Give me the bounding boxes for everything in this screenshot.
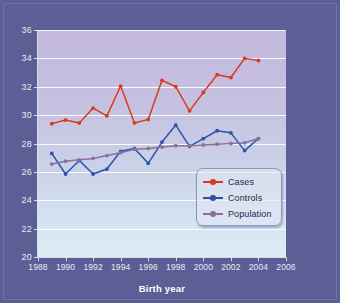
x-axis-title: Birth year: [38, 283, 286, 294]
y-tick-mark: [34, 115, 38, 116]
series-cases: [50, 56, 260, 125]
series-line: [52, 139, 259, 165]
data-point: [105, 154, 109, 158]
x-tick-label: 2004: [249, 262, 268, 272]
y-tick-label: 22: [22, 224, 32, 234]
legend-item-cases: Cases: [203, 174, 275, 190]
x-tick-mark: [38, 257, 39, 261]
data-point: [50, 162, 54, 166]
data-point: [105, 167, 109, 171]
data-point: [91, 157, 95, 161]
x-tick-label: 1998: [166, 262, 185, 272]
data-point: [243, 56, 247, 60]
data-point: [160, 140, 164, 144]
data-point: [215, 129, 219, 133]
y-tick-mark: [34, 87, 38, 88]
data-point: [215, 73, 219, 77]
legend-label: Cases: [228, 177, 254, 187]
x-tick-label: 1996: [139, 262, 158, 272]
data-point: [188, 109, 192, 113]
x-tick-mark: [258, 257, 259, 261]
x-tick-mark: [148, 257, 149, 261]
series-line: [52, 125, 259, 174]
legend-label: Controls: [228, 193, 262, 203]
y-tick-label: 28: [22, 139, 32, 149]
legend-item-controls: Controls: [203, 190, 275, 206]
data-point: [188, 144, 192, 148]
x-axis-line: [37, 257, 287, 258]
data-point: [146, 161, 150, 165]
y-tick-label: 32: [22, 82, 32, 92]
data-point: [50, 152, 54, 156]
data-point: [201, 143, 205, 147]
data-point: [229, 131, 233, 135]
data-point: [160, 145, 164, 149]
legend-item-population: Population: [203, 206, 275, 222]
y-tick-label: 36: [22, 25, 32, 35]
data-point: [105, 114, 109, 118]
data-point: [257, 59, 261, 63]
legend-swatch-icon: [203, 193, 223, 203]
data-point: [119, 151, 123, 155]
x-tick-label: 2002: [221, 262, 240, 272]
data-point: [243, 149, 247, 153]
data-point: [64, 118, 68, 122]
data-point: [91, 106, 95, 110]
x-tick-mark: [231, 257, 232, 261]
x-tick-mark: [286, 257, 287, 261]
legend-label: Population: [228, 209, 272, 219]
data-point: [77, 121, 81, 125]
data-point: [229, 142, 233, 146]
data-point: [64, 159, 68, 163]
data-point: [133, 121, 137, 125]
data-point: [257, 137, 261, 141]
x-tick-label: 1992: [83, 262, 102, 272]
data-point: [133, 147, 137, 151]
chart-figure: Mean maternal age 202224262830323436 198…: [0, 0, 340, 303]
data-point: [77, 158, 81, 162]
data-point: [229, 76, 233, 80]
x-tick-label: 2000: [194, 262, 213, 272]
chart-legend: CasesControlsPopulation: [196, 168, 282, 226]
y-tick-mark: [34, 144, 38, 145]
y-tick-label: 26: [22, 167, 32, 177]
x-tick-mark: [203, 257, 204, 261]
y-tick-mark: [34, 229, 38, 230]
y-tick-label: 20: [22, 252, 32, 262]
data-point: [146, 147, 150, 151]
data-point: [160, 78, 164, 82]
legend-swatch-icon: [203, 177, 223, 187]
y-tick-mark: [34, 30, 38, 31]
y-tick-mark: [34, 200, 38, 201]
x-tick-mark: [176, 257, 177, 261]
x-tick-label: 1990: [56, 262, 75, 272]
y-tick-label: 24: [22, 195, 32, 205]
x-tick-mark: [66, 257, 67, 261]
y-tick-label: 30: [22, 110, 32, 120]
legend-swatch-icon: [203, 209, 223, 219]
data-point: [201, 91, 205, 95]
y-tick-mark: [34, 58, 38, 59]
data-point: [174, 85, 178, 89]
data-point: [174, 123, 178, 127]
series-line: [52, 58, 259, 123]
y-tick-label: 34: [22, 53, 32, 63]
x-tick-label: 2006: [276, 262, 295, 272]
data-point: [243, 141, 247, 145]
x-tick-label: 1988: [28, 262, 47, 272]
data-point: [50, 122, 54, 126]
x-tick-label: 1994: [111, 262, 130, 272]
data-point: [215, 142, 219, 146]
y-tick-mark: [34, 172, 38, 173]
data-point: [201, 137, 205, 141]
data-point: [146, 117, 150, 121]
data-point: [91, 172, 95, 176]
data-point: [174, 144, 178, 148]
x-tick-mark: [93, 257, 94, 261]
data-point: [64, 172, 68, 176]
x-tick-mark: [121, 257, 122, 261]
data-point: [119, 84, 123, 88]
